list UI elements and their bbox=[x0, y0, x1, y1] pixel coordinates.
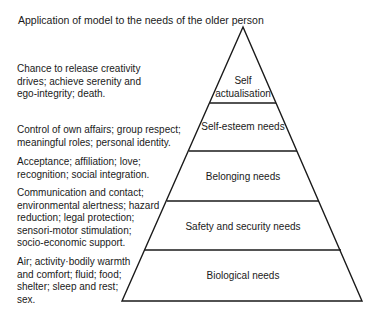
level-safety-security: Safety and security needs bbox=[163, 221, 323, 234]
description-safety-security: Communication and contact; environmental… bbox=[17, 187, 159, 250]
level-self-esteem: Self-esteem needs bbox=[183, 121, 303, 134]
description-biological: Air; activity·bodily warmth and comfort;… bbox=[17, 256, 130, 306]
description-self-actualisation: Chance to release creativity drives; ach… bbox=[17, 63, 141, 101]
description-belonging: Acceptance; affiliation; love; recogniti… bbox=[17, 156, 149, 181]
level-biological: Biological needs bbox=[163, 270, 323, 283]
level-belonging: Belonging needs bbox=[183, 171, 303, 184]
level-self-actualisation: Self actualisation bbox=[203, 75, 283, 100]
description-self-esteem: Control of own affairs; group respect; m… bbox=[17, 124, 181, 149]
pyramid-outline bbox=[122, 27, 362, 301]
